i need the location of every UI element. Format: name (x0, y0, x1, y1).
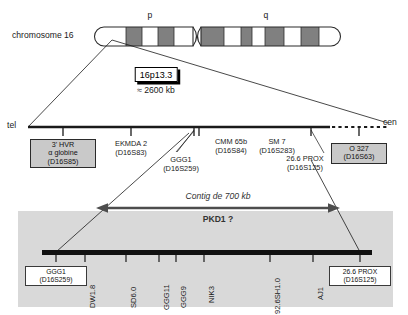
marker-label-d16s259: GGG1 (D16S259) (163, 156, 199, 173)
contig-label-sd60: SD6.0 (129, 287, 138, 308)
contig-name-266prox: 26.6 PROX (332, 268, 388, 276)
contig-label-926sh10: 92.6SH1.0 (273, 278, 282, 314)
leader-lines-markers (176, 130, 324, 153)
region-size-label: ≈ 2600 kb (137, 86, 175, 95)
band-q-dark-3 (265, 27, 284, 46)
contig-label-dw18: DW1.8 (88, 285, 97, 308)
marker-box-d16s63: O 327 (D16S63) (331, 143, 387, 164)
marker-label-d16s125: 26.6 PROX (D16S125) (286, 155, 323, 172)
marker-label-d16s84: CMM 65b (D16S84) (215, 138, 247, 155)
contig-locus-266prox: (D16S125) (332, 276, 388, 284)
band-box-16p133: 16p13.3 (135, 67, 178, 82)
tel-label: tel (7, 121, 16, 130)
contig-panel-background (18, 211, 393, 307)
marker-locus-d16s125: (D16S125) (286, 164, 323, 173)
centromere (193, 27, 201, 46)
marker-locus-d16s83: (D16S83) (115, 149, 147, 158)
marker-label-d16s283: SM 7 (D16S283) (259, 138, 295, 155)
contig-label-ggg11: GGG11 (162, 284, 171, 310)
marker-locus-d16s84: (D16S84) (215, 147, 247, 156)
marker-label-d16s83: EKMDA 2 (D16S83) (115, 140, 147, 157)
band-q-dark-2 (241, 27, 252, 46)
expansion-lines-top (28, 40, 388, 127)
marker-locus-d16s63: (D16S63) (335, 153, 383, 161)
contig-box-ggg1: GGG1 (D16S259) (25, 266, 87, 286)
arm-q-label: q (264, 11, 269, 20)
contig-label-ggg9: GGG9 (179, 286, 188, 308)
band-p-dark-1 (126, 27, 142, 46)
contig-length-label: Contig de 700 kb (186, 192, 251, 201)
marker-locus-d16s259: (D16S259) (163, 165, 199, 174)
region-axis (28, 127, 388, 136)
pkd1-label: PKD1 ? (203, 215, 234, 224)
band-p-dark-2 (158, 27, 174, 46)
cen-label: cen (383, 118, 397, 127)
chromosome-label: chromosome 16 (12, 31, 74, 40)
marker-locus-d16s85: (D16S85) (34, 158, 92, 166)
contig-box-266prox: 26.6 PROX (D16S125) (329, 266, 391, 286)
band-q-dark-1 (201, 27, 224, 46)
contig-label-nik3: NIK3 (207, 286, 216, 303)
marker-box-d16s85: 3' HVR α globine (D16S85) (30, 139, 96, 168)
band-q-dark-4 (301, 27, 319, 46)
contig-name-ggg1: GGG1 (28, 268, 84, 276)
contig-locus-ggg1: (D16S259) (28, 276, 84, 284)
chromosome-ideogram (95, 27, 341, 46)
contig-label-aj1: AJ1 (316, 287, 325, 300)
arm-p-label: p (148, 11, 153, 20)
